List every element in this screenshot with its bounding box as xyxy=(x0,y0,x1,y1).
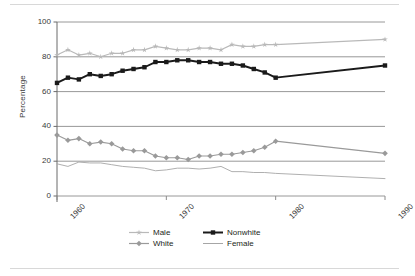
data-point-marker-square xyxy=(55,81,59,85)
data-point-marker-star xyxy=(229,42,235,47)
data-point-marker-diamond xyxy=(54,132,60,138)
data-point-marker-diamond xyxy=(120,146,126,152)
legend-item-female[interactable]: Female xyxy=(202,239,328,248)
data-point-marker-diamond xyxy=(262,144,268,150)
data-point-marker-diamond xyxy=(76,136,82,142)
data-point-marker-diamond xyxy=(196,153,202,159)
data-point-marker-square xyxy=(175,58,179,62)
series-male xyxy=(54,36,388,59)
legend-label: Male xyxy=(153,228,170,237)
data-point-marker-diamond xyxy=(131,148,137,154)
data-point-marker-diamond xyxy=(153,153,159,159)
data-point-marker-square xyxy=(208,60,212,64)
data-point-marker-diamond xyxy=(207,153,213,159)
y-tick-label: 60 xyxy=(27,87,51,96)
legend-swatch-white xyxy=(128,239,150,248)
legend-label: Female xyxy=(227,239,254,248)
y-axis-title: Percentage xyxy=(18,57,27,137)
data-point-marker-diamond xyxy=(251,148,257,154)
data-point-marker-star xyxy=(153,43,159,48)
data-point-marker-diamond xyxy=(164,155,170,161)
data-point-marker-diamond xyxy=(65,138,71,144)
legend-item-nonwhite[interactable]: Nonwhite xyxy=(202,228,328,237)
data-point-marker-square xyxy=(120,69,124,73)
data-point-marker-square xyxy=(153,60,157,64)
legend-swatch-female xyxy=(202,239,224,248)
legend-label: Nonwhite xyxy=(227,228,260,237)
series-line xyxy=(57,162,385,179)
data-point-marker-square xyxy=(273,75,277,79)
data-point-marker-diamond xyxy=(136,241,142,247)
legend-swatch-nonwhite xyxy=(202,228,224,237)
data-point-marker-square xyxy=(164,60,168,64)
data-point-marker-square xyxy=(77,77,81,81)
data-point-marker-square xyxy=(230,62,234,66)
data-point-marker-diamond xyxy=(229,151,235,157)
data-point-marker-square xyxy=(383,63,387,67)
data-point-marker-square xyxy=(186,58,190,62)
data-point-marker-square xyxy=(241,63,245,67)
data-point-marker-star xyxy=(65,47,71,52)
data-point-marker-square xyxy=(66,75,70,79)
series-female xyxy=(57,162,385,179)
data-point-marker-square xyxy=(88,72,92,76)
data-point-marker-square xyxy=(219,62,223,66)
data-point-marker-diamond xyxy=(174,155,180,161)
data-point-marker-square xyxy=(211,230,215,234)
legend-item-male[interactable]: Male xyxy=(128,228,202,237)
legend-item-white[interactable]: White xyxy=(128,239,202,248)
data-point-marker-diamond xyxy=(218,151,224,157)
data-point-marker-diamond xyxy=(142,148,148,154)
series-nonwhite xyxy=(55,58,387,85)
data-point-marker-diamond xyxy=(273,138,279,144)
chart-legend: MaleNonwhiteWhiteFemale xyxy=(128,228,328,248)
data-point-marker-square xyxy=(252,67,256,71)
legend-swatch-male xyxy=(128,228,150,237)
y-tick-label: 80 xyxy=(27,52,51,61)
y-tick-label: 20 xyxy=(27,156,51,165)
data-point-marker-diamond xyxy=(109,141,115,147)
series-white xyxy=(54,132,388,162)
data-point-marker-square xyxy=(99,74,103,78)
data-point-marker-diamond xyxy=(87,141,93,147)
data-point-marker-square xyxy=(142,65,146,69)
data-point-marker-diamond xyxy=(98,139,104,145)
data-point-marker-square xyxy=(109,72,113,76)
data-point-marker-diamond xyxy=(382,151,388,157)
y-tick-label: 100 xyxy=(27,17,51,26)
data-point-marker-diamond xyxy=(240,150,246,156)
y-tick-label: 40 xyxy=(27,121,51,130)
data-point-marker-star xyxy=(87,50,93,55)
legend-label: White xyxy=(153,239,173,248)
y-tick-label: 0 xyxy=(27,191,51,200)
data-point-marker-square xyxy=(263,70,267,74)
data-point-marker-square xyxy=(131,67,135,71)
data-point-marker-square xyxy=(197,60,201,64)
